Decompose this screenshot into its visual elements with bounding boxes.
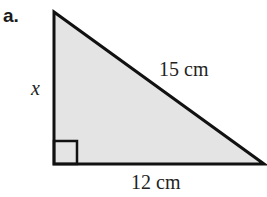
vertical-side-label: x <box>31 78 40 98</box>
right-triangle-diagram: a. x 15 cm 12 cm <box>0 0 267 197</box>
triangle-shape <box>54 12 264 164</box>
triangle-figure <box>0 0 267 197</box>
part-label: a. <box>3 6 19 25</box>
hypotenuse-label: 15 cm <box>159 59 208 79</box>
base-label: 12 cm <box>131 172 180 192</box>
